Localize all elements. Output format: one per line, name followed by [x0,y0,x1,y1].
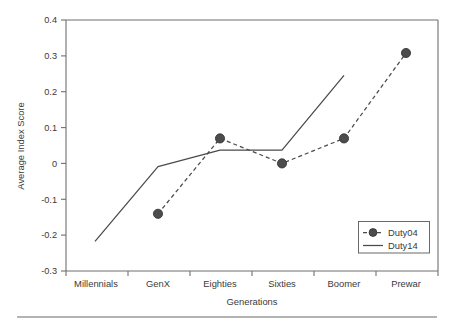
y-tick-marks [61,20,66,271]
y-tick-label: 0 [52,159,57,169]
legend-entry-duty04[interactable]: Duty04 [363,227,418,238]
series-line-duty04 [158,53,406,214]
y-tick-label: 0.3 [44,51,57,61]
x-category-label: Sixties [268,278,296,289]
x-axis-title: Generations [226,296,277,307]
series-markers-duty04 [153,48,410,218]
y-tick-label: 0.4 [44,15,57,25]
chart-figure: 0.4 0.3 0.2 0.1 0 -0.1 -0.2 -0.3 Millenn… [0,0,454,328]
x-tick-marks [66,271,438,276]
y-axis-title: Average Index Score [15,102,26,189]
x-category-label: GenX [146,278,171,289]
legend-label: Duty14 [388,240,418,251]
legend-marker-icon [369,229,377,237]
data-point-marker [401,48,410,57]
x-tick-labels: Millennials GenX Eighties Sixties Boomer… [74,278,421,289]
data-point-marker [215,134,224,143]
x-category-label: Boomer [328,278,361,289]
data-point-marker [277,159,286,168]
data-point-marker [153,209,162,218]
legend-label: Duty04 [388,227,418,238]
line-chart: 0.4 0.3 0.2 0.1 0 -0.1 -0.2 -0.3 Millenn… [0,0,454,328]
x-category-label: Millennials [74,278,118,289]
x-category-label: Eighties [203,278,237,289]
chart-legend[interactable]: Duty04 Duty14 [359,222,430,254]
y-tick-label: 0.2 [44,87,57,97]
y-tick-label: -0.3 [41,266,57,276]
y-tick-label: 0.1 [44,123,57,133]
x-category-label: Prewar [391,278,421,289]
y-tick-label: -0.1 [41,195,57,205]
series-line-duty14 [95,75,344,241]
data-point-marker [339,134,348,143]
y-tick-label: -0.2 [41,230,57,240]
y-tick-labels: 0.4 0.3 0.2 0.1 0 -0.1 -0.2 -0.3 [41,15,57,276]
